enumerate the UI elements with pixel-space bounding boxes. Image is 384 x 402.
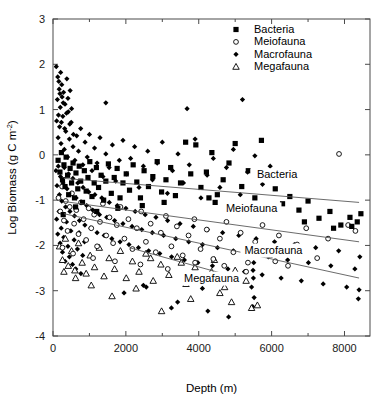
data-point [226, 314, 231, 319]
data-point [244, 269, 249, 274]
data-point [64, 76, 69, 81]
data-point [246, 260, 251, 265]
data-point [305, 198, 310, 203]
data-point [186, 239, 191, 244]
data-point [122, 236, 127, 241]
trend-label-bacteria: Bacteria [257, 168, 298, 180]
data-point [304, 226, 309, 231]
trend-label-megafauna: Megafauna [184, 272, 240, 284]
data-point [55, 97, 60, 102]
data-point [313, 245, 318, 250]
data-point [306, 260, 311, 265]
data-point [260, 272, 265, 277]
data-point [57, 169, 62, 174]
data-point [61, 162, 66, 167]
data-point [54, 183, 59, 188]
data-point [160, 140, 165, 145]
data-point [111, 266, 117, 272]
data-point [344, 284, 349, 289]
data-point [166, 272, 172, 278]
figure-container: 020004000600080003210-1-2-3-4Depth (m)Lo… [0, 0, 384, 402]
data-point [101, 198, 106, 203]
data-point [141, 164, 146, 169]
data-point [129, 258, 135, 264]
data-point [162, 200, 167, 205]
data-point [163, 177, 168, 182]
y-axis-title: Log Biomass (g C m-2) [5, 120, 18, 235]
data-point [78, 271, 83, 276]
data-point [249, 284, 254, 289]
data-point [254, 302, 260, 308]
data-point [62, 218, 67, 223]
data-point [357, 254, 362, 259]
data-point [169, 244, 174, 249]
data-point [220, 230, 225, 235]
data-point [60, 114, 65, 119]
data-point [94, 165, 99, 170]
y-tick-label: 0 [39, 149, 45, 161]
data-point [198, 195, 203, 200]
data-point [205, 308, 210, 313]
data-point [356, 296, 361, 301]
data-point [82, 168, 87, 173]
trend-label-meiofauna: Meiofauna [226, 202, 278, 214]
data-point [94, 230, 99, 235]
data-point [159, 189, 164, 194]
data-point [127, 188, 132, 193]
data-point [231, 147, 236, 152]
data-point [349, 224, 354, 229]
data-point [107, 200, 112, 205]
data-point [252, 153, 257, 158]
data-point [278, 275, 283, 280]
data-point [193, 260, 198, 265]
data-point [66, 192, 71, 197]
data-point [252, 195, 257, 200]
data-point [113, 259, 118, 264]
x-tick-label: 6000 [259, 342, 283, 354]
data-point [239, 184, 244, 189]
data-point [184, 106, 189, 111]
x-tick-label: 0 [50, 342, 56, 354]
data-point [133, 285, 139, 291]
data-point [132, 144, 137, 149]
data-point [128, 156, 133, 161]
data-point [103, 179, 108, 184]
data-point [58, 105, 63, 110]
data-point [91, 264, 97, 270]
data-point [69, 180, 74, 185]
series-bacteria [56, 138, 364, 231]
data-point [138, 262, 143, 267]
data-point [123, 275, 129, 281]
data-point [87, 159, 92, 164]
data-point [200, 286, 205, 291]
data-point [82, 140, 87, 145]
data-point [336, 248, 341, 253]
data-point [59, 120, 64, 125]
data-point [72, 237, 77, 242]
data-point [70, 176, 75, 181]
data-point [331, 226, 336, 231]
data-point [58, 141, 63, 146]
data-point [68, 88, 73, 93]
data-point [175, 151, 180, 156]
data-point [60, 177, 65, 182]
data-point [69, 106, 74, 111]
data-point [72, 195, 77, 200]
data-point [88, 282, 94, 288]
data-point [103, 100, 108, 105]
data-point [67, 136, 72, 141]
data-point [144, 239, 149, 244]
data-point [180, 253, 185, 258]
data-point [91, 256, 96, 261]
legend-marker-open-circle [234, 40, 239, 45]
data-point [60, 245, 65, 250]
legend-marker-filled-diamond [233, 52, 238, 57]
data-point [54, 118, 59, 123]
data-point [126, 242, 131, 247]
data-point [106, 255, 112, 261]
data-point [174, 224, 179, 229]
data-point [302, 219, 307, 224]
data-point [56, 164, 61, 169]
data-point [56, 158, 61, 163]
data-point [192, 136, 197, 141]
